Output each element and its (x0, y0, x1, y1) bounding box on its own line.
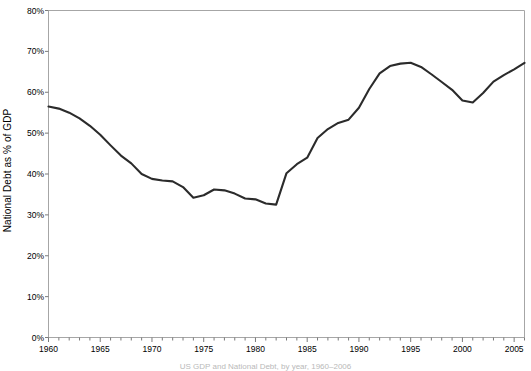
data-series-group (49, 63, 525, 205)
data-series-line (49, 63, 525, 205)
chart-figure: National Debt as % of GDP 80%70%60%50%40… (0, 0, 531, 371)
plot-area (0, 0, 531, 371)
chart-bottom-caption: US GDP and National Debt, by year, 1960–… (0, 362, 531, 371)
